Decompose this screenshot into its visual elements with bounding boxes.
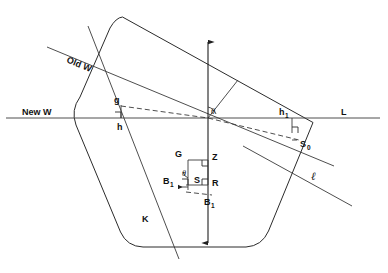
- label-G: G: [175, 149, 182, 159]
- label-Z: Z: [212, 152, 218, 162]
- svg-text:0: 0: [307, 144, 311, 151]
- label-new-waterline: New W: [22, 107, 52, 117]
- g-right-angle-icon: [115, 112, 121, 118]
- label-theta-center: θ: [211, 107, 215, 116]
- svg-text:h: h: [279, 107, 285, 117]
- label-h: h: [117, 122, 123, 132]
- z-right-angle-icon: [202, 160, 208, 166]
- r-right-angle-icon: [202, 179, 208, 185]
- s-right-angle-icon: [182, 179, 188, 185]
- tilt-axis-line: [88, 26, 179, 259]
- geometric-diagram-svg: Old W New W g h h 1 S 0 L ℓ K G Z S R: [0, 0, 388, 273]
- label-B1-left: B 1: [163, 176, 174, 188]
- svg-text:1: 1: [211, 202, 215, 209]
- svg-text:1: 1: [170, 181, 174, 188]
- svg-text:B: B: [204, 197, 211, 207]
- label-old-waterline: Old W: [65, 55, 93, 74]
- label-script-l: ℓ: [311, 170, 316, 182]
- hull-outline: [74, 17, 313, 247]
- h1-right-angle-icon: [292, 127, 298, 133]
- label-R: R: [212, 178, 219, 188]
- label-K: K: [142, 214, 149, 224]
- label-B1-lower: B 1: [204, 197, 215, 209]
- svg-text:B: B: [163, 176, 170, 186]
- label-L: L: [341, 107, 347, 117]
- label-g: g: [114, 95, 120, 105]
- svg-text:1: 1: [285, 112, 289, 119]
- lower-right-line: [243, 146, 352, 206]
- label-theta-lower: θ: [182, 169, 186, 178]
- label-s0: S 0: [300, 139, 311, 151]
- dashed-construction-line: [121, 106, 299, 140]
- diagram-canvas: Old W New W g h h 1 S 0 L ℓ K G Z S R: [0, 0, 388, 273]
- label-S: S: [194, 175, 200, 185]
- svg-text:S: S: [300, 139, 306, 149]
